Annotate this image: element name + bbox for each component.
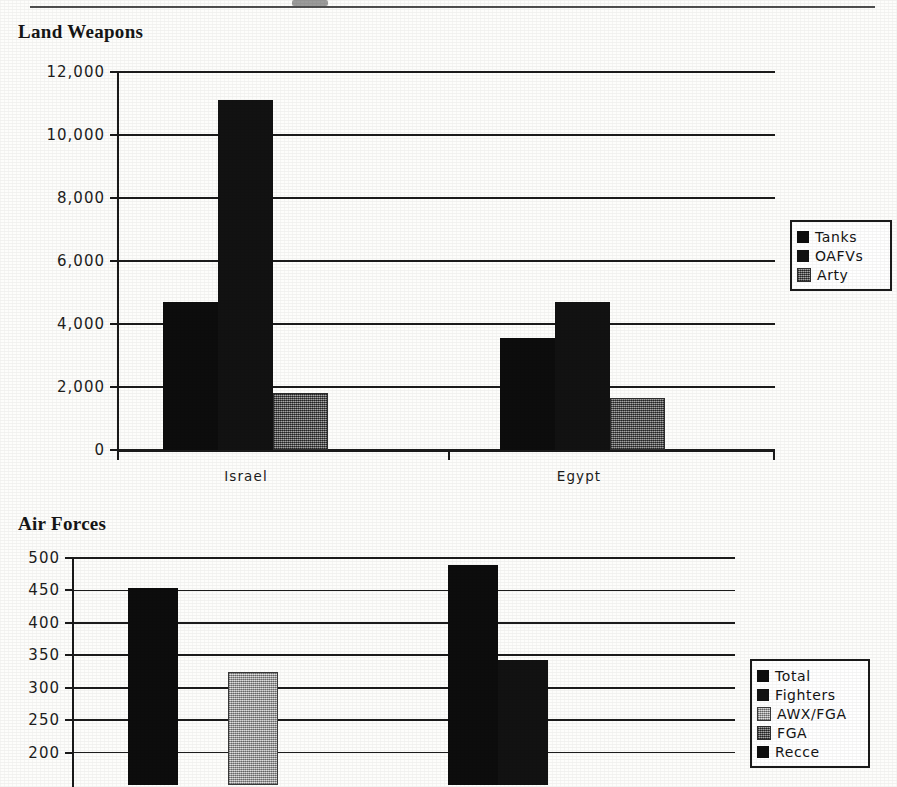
legend-item: Total bbox=[757, 666, 860, 685]
legend-swatch-icon bbox=[757, 746, 769, 758]
bar-fighters-egypt bbox=[498, 660, 548, 785]
y-axis-tick bbox=[65, 687, 74, 689]
legend-swatch-icon bbox=[757, 689, 769, 701]
x-axis-tick-end bbox=[773, 451, 775, 460]
header-text-descender-smudge bbox=[292, 0, 328, 6]
x-axis-tick bbox=[117, 451, 119, 460]
y-axis-tick-label: 12,000 bbox=[47, 63, 106, 81]
page-header-rule bbox=[30, 6, 875, 8]
legend-label: OAFVs bbox=[815, 248, 863, 264]
legend-swatch-icon bbox=[797, 268, 811, 282]
legend-swatch-icon bbox=[757, 670, 769, 682]
y-axis-tick bbox=[65, 752, 74, 754]
x-axis-label-egypt: Egypt bbox=[557, 468, 601, 484]
y-axis-tick bbox=[110, 71, 119, 73]
bar-total-egypt bbox=[448, 565, 498, 786]
y-axis-tick-label: 200 bbox=[28, 744, 60, 762]
legend-label: Tanks bbox=[815, 229, 857, 245]
bar-total-israel bbox=[128, 588, 178, 785]
land-legend: TanksOAFVsArty bbox=[790, 220, 892, 291]
air-forces-title: Air Forces bbox=[18, 513, 106, 535]
legend-item: Tanks bbox=[797, 227, 882, 246]
legend-item: AWX/FGA bbox=[757, 704, 860, 723]
bar-tanks-israel bbox=[163, 302, 218, 450]
y-axis-tick bbox=[65, 589, 74, 591]
gridline bbox=[117, 197, 775, 199]
bar-oafvs-egypt bbox=[555, 302, 610, 450]
y-axis-tick bbox=[65, 654, 74, 656]
legend-label: Total bbox=[775, 668, 811, 684]
y-axis-tick bbox=[110, 386, 119, 388]
air-plot-area: 200250300350400450500 bbox=[72, 558, 735, 787]
land-y-axis bbox=[117, 72, 119, 452]
y-axis-tick-label: 10,000 bbox=[47, 126, 106, 144]
y-axis-tick-label: 250 bbox=[28, 711, 60, 729]
legend-item: OAFVs bbox=[797, 246, 882, 265]
legend-label: Fighters bbox=[775, 687, 836, 703]
x-axis-label-israel: Israel bbox=[224, 468, 268, 484]
legend-item: Arty bbox=[797, 265, 882, 284]
gridline bbox=[72, 557, 735, 559]
y-axis-tick bbox=[65, 557, 74, 559]
legend-swatch-icon bbox=[797, 231, 809, 243]
y-axis-tick-label: 300 bbox=[28, 679, 60, 697]
legend-label: Arty bbox=[817, 267, 849, 283]
legend-label: Recce bbox=[775, 744, 820, 760]
legend-item: Fighters bbox=[757, 685, 860, 704]
y-axis-tick bbox=[110, 323, 119, 325]
y-axis-tick-label: 400 bbox=[28, 614, 60, 632]
y-axis-tick-label: 450 bbox=[28, 581, 60, 599]
scanned-page: Land Weapons 02,0004,0006,0008,00010,000… bbox=[0, 0, 897, 787]
legend-swatch-icon bbox=[797, 250, 809, 262]
y-axis-tick bbox=[110, 260, 119, 262]
legend-label: FGA bbox=[777, 725, 807, 741]
y-axis-tick bbox=[65, 622, 74, 624]
y-axis-tick-label: 6,000 bbox=[57, 252, 105, 270]
bar-awx-fga-israel bbox=[228, 672, 278, 786]
land-weapons-title: Land Weapons bbox=[18, 21, 143, 43]
y-axis-tick-label: 4,000 bbox=[57, 315, 105, 333]
y-axis-tick bbox=[65, 719, 74, 721]
legend-swatch-icon bbox=[757, 707, 771, 721]
bar-arty-egypt bbox=[610, 398, 665, 450]
air-legend: TotalFightersAWX/FGAFGARecce bbox=[750, 659, 870, 768]
y-axis-tick-label: 500 bbox=[28, 549, 60, 567]
bar-tanks-egypt bbox=[500, 338, 555, 450]
y-axis-tick-label: 2,000 bbox=[57, 378, 105, 396]
x-axis-tick bbox=[448, 451, 450, 460]
gridline bbox=[117, 260, 775, 262]
y-axis-tick-label: 350 bbox=[28, 646, 60, 664]
y-axis-tick-label: 8,000 bbox=[57, 189, 105, 207]
y-axis-tick bbox=[110, 134, 119, 136]
y-axis-tick-label: 0 bbox=[94, 441, 105, 459]
gridline bbox=[117, 134, 775, 136]
legend-item: Recce bbox=[757, 742, 860, 761]
bar-oafvs-israel bbox=[218, 100, 273, 450]
gridline bbox=[117, 71, 775, 73]
y-axis-tick bbox=[110, 197, 119, 199]
legend-label: AWX/FGA bbox=[777, 706, 847, 722]
bar-arty-israel bbox=[273, 393, 328, 450]
legend-swatch-icon bbox=[757, 726, 771, 740]
legend-item: FGA bbox=[757, 723, 860, 742]
land-plot-area: 02,0004,0006,0008,00010,00012,000IsraelE… bbox=[117, 72, 775, 452]
